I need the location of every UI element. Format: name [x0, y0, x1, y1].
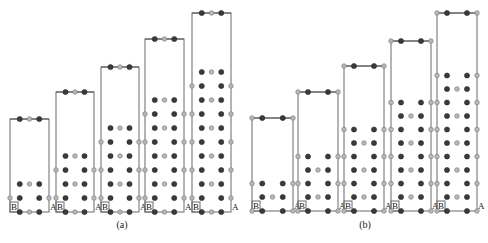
dark-atom-icon — [351, 194, 356, 199]
light-atom-icon — [209, 154, 214, 159]
dark-atom-icon — [325, 167, 330, 172]
dark-atom-icon — [17, 181, 22, 186]
light-atom-icon — [54, 196, 59, 201]
dark-atom-icon — [152, 153, 157, 158]
axis-label-a: A — [232, 202, 239, 212]
light-atom-icon — [382, 154, 387, 159]
dark-atom-icon — [127, 209, 132, 214]
dark-atom-icon — [219, 97, 224, 102]
light-atom-icon — [362, 168, 367, 173]
dark-atom-icon — [108, 195, 113, 200]
axis-label-b: B — [299, 201, 305, 211]
dark-atom-icon — [82, 167, 87, 172]
dark-atom-icon — [127, 153, 132, 158]
unit-cell-a-1: BA — [8, 116, 57, 214]
panel-b: BABABABABA — [250, 10, 485, 213]
light-atom-icon — [162, 126, 167, 131]
light-atom-icon — [162, 154, 167, 159]
dark-atom-icon — [63, 195, 68, 200]
dark-atom-icon — [108, 167, 113, 172]
light-atom-icon — [382, 181, 387, 186]
light-atom-icon — [270, 195, 275, 200]
light-atom-icon — [362, 195, 367, 200]
light-atom-icon — [143, 196, 148, 201]
light-atom-icon — [389, 127, 394, 132]
dark-atom-icon — [172, 111, 177, 116]
dark-atom-icon — [152, 195, 157, 200]
dark-atom-icon — [127, 125, 132, 130]
dark-atom-icon — [371, 194, 376, 199]
light-atom-icon — [209, 210, 214, 215]
dark-atom-icon — [418, 208, 423, 213]
light-atom-icon — [47, 196, 52, 201]
light-atom-icon — [475, 127, 480, 132]
dark-atom-icon — [219, 195, 224, 200]
dark-atom-icon — [152, 139, 157, 144]
dark-atom-icon — [82, 209, 87, 214]
light-atom-icon — [342, 127, 347, 132]
unit-cell-b-4: BA — [389, 38, 439, 213]
dark-atom-icon — [219, 83, 224, 88]
light-atom-icon — [27, 182, 32, 187]
dark-atom-icon — [199, 209, 204, 214]
light-atom-icon — [409, 195, 414, 200]
dark-atom-icon — [260, 194, 265, 199]
light-atom-icon — [209, 126, 214, 131]
cell-outline — [344, 66, 384, 211]
light-atom-icon — [162, 182, 167, 187]
light-atom-icon — [99, 196, 104, 201]
dark-atom-icon — [108, 153, 113, 158]
panel-a: BABABABABA — [8, 10, 239, 214]
panel-a-caption: (a) — [116, 219, 127, 231]
dark-atom-icon — [260, 115, 265, 120]
light-atom-icon — [182, 140, 187, 145]
unit-cell-a-5: BA — [190, 10, 239, 214]
light-atom-icon — [389, 181, 394, 186]
unit-cell-b-2: BA — [296, 89, 346, 213]
dark-atom-icon — [371, 208, 376, 213]
axis-label-a: A — [478, 201, 485, 211]
dark-atom-icon — [444, 194, 449, 199]
dark-atom-icon — [260, 181, 265, 186]
light-atom-icon — [409, 168, 414, 173]
dark-atom-icon — [371, 154, 376, 159]
dark-atom-icon — [418, 100, 423, 105]
axis-label-b: B — [146, 202, 152, 212]
dark-atom-icon — [351, 154, 356, 159]
light-atom-icon — [429, 181, 434, 186]
dark-atom-icon — [108, 125, 113, 130]
cell-outline — [101, 67, 139, 212]
light-atom-icon — [435, 73, 440, 78]
dark-atom-icon — [464, 127, 469, 132]
dark-atom-icon — [305, 167, 310, 172]
dark-atom-icon — [371, 181, 376, 186]
cell-outline — [391, 41, 431, 211]
dark-atom-icon — [63, 167, 68, 172]
dark-atom-icon — [108, 181, 113, 186]
light-atom-icon — [250, 116, 255, 121]
dark-atom-icon — [172, 125, 177, 130]
dark-atom-icon — [219, 139, 224, 144]
light-atom-icon — [118, 126, 123, 131]
dark-atom-icon — [17, 195, 22, 200]
light-atom-icon — [342, 64, 347, 69]
light-atom-icon — [296, 90, 301, 95]
light-atom-icon — [54, 168, 59, 173]
dark-atom-icon — [219, 10, 224, 15]
dark-atom-icon — [418, 127, 423, 132]
dark-atom-icon — [398, 154, 403, 159]
light-atom-icon — [429, 100, 434, 105]
dark-atom-icon — [464, 154, 469, 159]
dark-atom-icon — [418, 167, 423, 172]
light-atom-icon — [118, 65, 123, 70]
light-atom-icon — [429, 127, 434, 132]
light-atom-icon — [475, 154, 480, 159]
light-atom-icon — [8, 196, 13, 201]
light-atom-icon — [435, 11, 440, 16]
dark-atom-icon — [444, 100, 449, 105]
dark-atom-icon — [260, 208, 265, 213]
dark-atom-icon — [305, 181, 310, 186]
dark-atom-icon — [127, 181, 132, 186]
light-atom-icon — [99, 140, 104, 145]
dark-atom-icon — [199, 153, 204, 158]
